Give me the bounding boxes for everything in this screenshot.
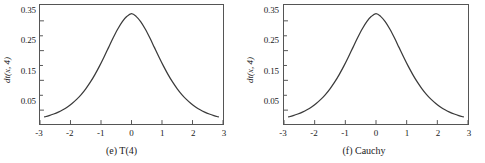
x-tick-label: -3 <box>29 128 49 138</box>
y-tick-label: 0.05 <box>2 97 36 106</box>
panel-cauchy: dt(x, 4) 0.35 0.25 0.15 0.05 <box>243 0 485 163</box>
y-axis-tick-labels-left: 0.35 0.25 0.15 0.05 <box>0 0 36 163</box>
plot-area-t4 <box>39 4 224 125</box>
y-tick-label: 0.25 <box>245 36 279 45</box>
x-tick-label: -1 <box>91 128 111 138</box>
y-axis-tick-labels-right: 0.35 0.25 0.15 0.05 <box>243 0 279 163</box>
x-tick-label: -3 <box>273 128 293 138</box>
x-tick-marks-right <box>284 120 468 124</box>
x-tick-label: 2 <box>183 128 203 138</box>
y-tick-marks-right <box>284 21 288 110</box>
x-tick-marks-left <box>40 120 223 124</box>
x-tick-label: 1 <box>152 128 172 138</box>
y-tick-label: 0.35 <box>245 6 279 15</box>
x-tick-label: 3 <box>459 128 479 138</box>
y-tick-label: 0.25 <box>2 36 36 45</box>
y-tick-label: 0.15 <box>2 67 36 76</box>
panel-t4: dt(x, 4) 0.35 0.25 0.15 0.05 <box>0 0 243 163</box>
x-tick-label: -1 <box>335 128 355 138</box>
panel-caption-cauchy: (f) Cauchy <box>243 145 485 157</box>
plot-area-cauchy <box>283 4 469 125</box>
density-curve-path-cauchy <box>289 14 464 117</box>
y-tick-label: 0.15 <box>245 67 279 76</box>
x-tick-label: -2 <box>304 128 324 138</box>
x-tick-label: 3 <box>214 128 234 138</box>
x-tick-label: 1 <box>397 128 417 138</box>
x-tick-label: 0 <box>122 128 142 138</box>
panel-caption-t4: (e) T(4) <box>0 145 243 157</box>
density-curve-svg-t4 <box>40 5 223 124</box>
x-axis-tick-labels-right: -3 -2 -1 0 1 2 3 <box>283 128 469 140</box>
y-tick-label: 0.05 <box>245 97 279 106</box>
x-tick-label: 0 <box>366 128 386 138</box>
density-curve-path-t4 <box>45 14 219 117</box>
y-tick-label: 0.35 <box>2 6 36 15</box>
x-tick-label: 2 <box>428 128 448 138</box>
density-curve-svg-cauchy <box>284 5 468 124</box>
y-tick-marks-left <box>40 21 44 110</box>
figure-two-density-plots: dt(x, 4) 0.35 0.25 0.15 0.05 <box>0 0 485 163</box>
x-axis-tick-labels-left: -3 -2 -1 0 1 2 3 <box>39 128 224 140</box>
x-tick-label: -2 <box>60 128 80 138</box>
